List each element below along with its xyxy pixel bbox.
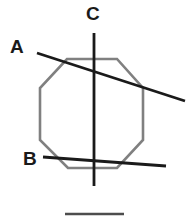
label-a: A	[10, 37, 24, 56]
figure-canvas	[0, 0, 191, 219]
label-b: B	[23, 149, 37, 168]
octagon-shape	[40, 59, 143, 168]
geometry-figure: A B C	[0, 0, 191, 219]
label-c: C	[86, 4, 100, 23]
